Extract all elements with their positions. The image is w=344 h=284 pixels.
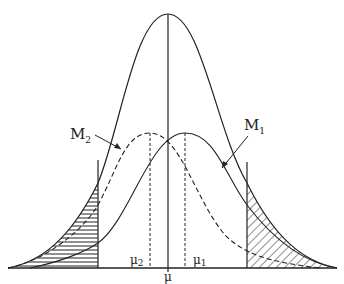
M1-label: M1 (244, 116, 265, 136)
right-rejection-region (247, 183, 337, 268)
mu-label: μ (164, 270, 172, 284)
main-normal-curve (8, 14, 337, 268)
M2-label: M2 (70, 125, 91, 145)
mu2-label: μ2 (130, 253, 144, 268)
mu1-label: μ1 (193, 253, 207, 268)
left-rejection-region (8, 183, 98, 268)
distribution-diagram: M2 M1 μ2 μ1 μ (0, 0, 344, 284)
